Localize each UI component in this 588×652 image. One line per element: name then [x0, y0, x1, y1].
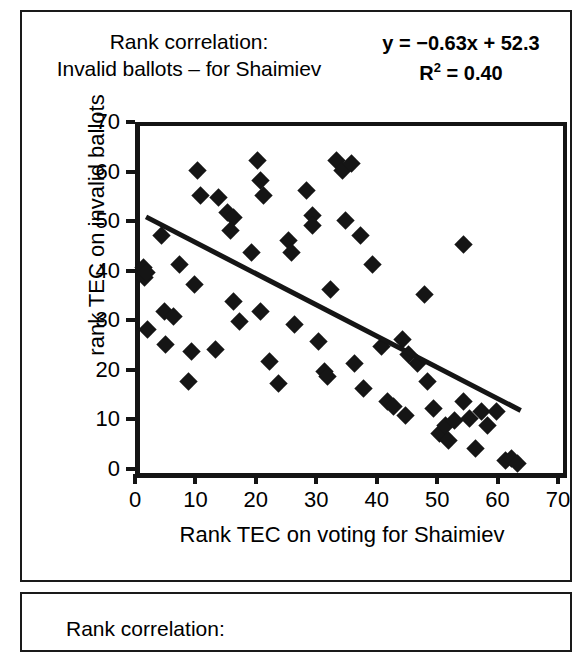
y-axis-tick-label: 60 [72, 161, 120, 183]
x-axis-tick [193, 474, 197, 484]
data-point [170, 256, 188, 274]
data-point [255, 186, 273, 204]
data-point [185, 275, 203, 293]
x-axis-tick [254, 474, 258, 484]
x-axis-tick [133, 474, 137, 484]
y-axis-tick-label: 20 [72, 359, 120, 381]
next-panel-caption: Rank correlation: [66, 616, 225, 642]
data-point [243, 243, 261, 261]
x-axis-tick-label: 40 [354, 488, 400, 512]
data-point [418, 372, 436, 390]
data-point [487, 402, 505, 420]
y-axis-tick [126, 417, 135, 421]
y-axis-tick-label: 50 [72, 210, 120, 232]
data-point [363, 256, 381, 274]
y-axis-tick-label: 40 [72, 260, 120, 282]
x-axis-tick [314, 474, 318, 484]
data-point [252, 303, 270, 321]
plot-frame [135, 122, 567, 478]
x-axis-tick-label: 50 [414, 488, 460, 512]
y-axis-tick [126, 170, 135, 174]
x-axis-tick [435, 474, 439, 484]
data-point [224, 293, 242, 311]
data-point [252, 171, 270, 189]
data-point [454, 392, 472, 410]
data-point [221, 221, 239, 239]
data-point [249, 151, 267, 169]
data-point [157, 335, 175, 353]
data-point [297, 181, 315, 199]
data-point [270, 375, 288, 393]
x-axis-tick [496, 474, 500, 484]
data-point [206, 340, 224, 358]
y-axis-tick [126, 120, 135, 124]
data-point [188, 161, 206, 179]
y-axis-tick-label: 30 [72, 309, 120, 331]
x-axis-tick-label: 10 [172, 488, 218, 512]
y-axis-tick [126, 318, 135, 322]
data-point [285, 315, 303, 333]
x-axis-tick-label: 60 [475, 488, 521, 512]
data-point [454, 236, 472, 254]
data-point [152, 226, 170, 244]
data-point [424, 399, 442, 417]
data-point [354, 380, 372, 398]
x-axis-tick-label: 30 [293, 488, 339, 512]
data-point [321, 280, 339, 298]
x-axis-tick [375, 474, 379, 484]
data-point [373, 337, 391, 355]
plot-area [140, 126, 563, 473]
data-point [351, 226, 369, 244]
data-point [182, 342, 200, 360]
data-point [336, 211, 354, 229]
x-axis-tick [556, 474, 560, 484]
data-point [466, 439, 484, 457]
x-axis-tick-label: 70 [535, 488, 581, 512]
y-axis-tick [126, 269, 135, 273]
data-point [179, 372, 197, 390]
y-axis-tick [126, 467, 135, 471]
x-axis-tick-label: 20 [233, 488, 279, 512]
data-point [345, 355, 363, 373]
data-point [138, 320, 156, 338]
x-axis-tick-label: 0 [112, 488, 158, 512]
y-axis-tick-label: 70 [72, 111, 120, 133]
next-chart-panel: Rank correlation: [20, 592, 572, 652]
y-axis-tick-label: 0 [72, 458, 120, 480]
chart-panel: Rank correlation: Invalid ballots – for … [20, 10, 572, 582]
y-axis-tick [126, 368, 135, 372]
x-axis-title: Rank TEC on voting for Shaimiev [102, 522, 582, 548]
y-axis-tick-label: 10 [72, 408, 120, 430]
y-axis-tick [126, 219, 135, 223]
data-point [261, 352, 279, 370]
data-point [415, 285, 433, 303]
data-point [231, 313, 249, 331]
data-point [309, 332, 327, 350]
data-point [191, 186, 209, 204]
scatter-chart: rank TEC on invalid ballots 010203040506… [42, 22, 588, 594]
